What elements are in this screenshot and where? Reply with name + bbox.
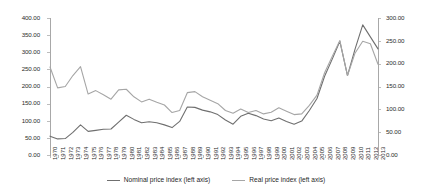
legend-item-real[interactable]: Real price index (left axis)	[232, 177, 325, 184]
plot-area	[0, 0, 432, 188]
chart-legend: Nominal price index (left axis) Real pri…	[0, 177, 432, 184]
legend-label-real: Real price index (left axis)	[249, 177, 325, 184]
line-swatch-real-icon	[232, 180, 245, 181]
series-line-real	[50, 41, 378, 115]
line-swatch-nominal-icon	[107, 180, 120, 181]
legend-item-nominal[interactable]: Nominal price index (left axis)	[107, 177, 210, 184]
legend-label-nominal: Nominal price index (left axis)	[124, 177, 210, 184]
series-line-nominal	[50, 25, 378, 139]
price-index-line-chart: 0.0050.00100.00150.00200.00250.00300.003…	[0, 0, 432, 188]
